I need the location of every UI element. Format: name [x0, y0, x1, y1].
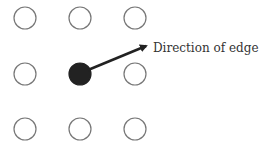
- grid-node: [69, 118, 91, 140]
- edge-direction-diagram: Direction of edge: [0, 0, 263, 155]
- grid-node: [14, 7, 36, 29]
- grid-node: [14, 63, 36, 85]
- grid-node: [124, 7, 146, 29]
- grid-node: [124, 118, 146, 140]
- node-grid: [14, 7, 146, 140]
- grid-node: [124, 63, 146, 85]
- grid-node: [14, 118, 36, 140]
- active-node: [69, 63, 91, 85]
- direction-label: Direction of edge: [153, 41, 259, 55]
- edge-direction-arrow: [88, 46, 146, 70]
- grid-node: [69, 7, 91, 29]
